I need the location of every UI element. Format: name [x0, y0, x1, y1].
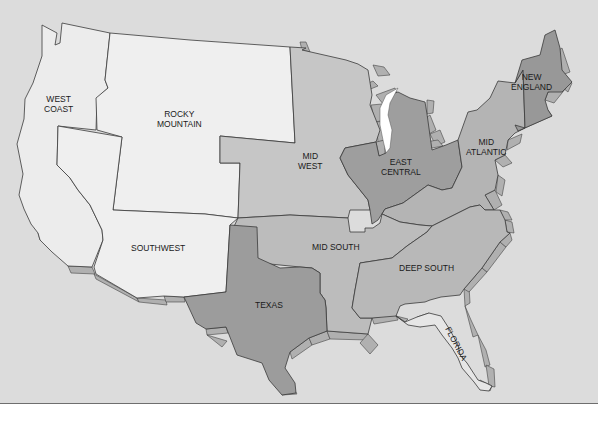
- label-deep-south: DEEP SOUTH: [399, 263, 454, 273]
- map-svg: [0, 0, 598, 403]
- regions: [17, 23, 572, 395]
- label-mid-atlantic: MID ATLANTIC: [466, 137, 506, 157]
- label-mid-south: MID SOUTH: [312, 242, 360, 252]
- label-rocky-mountain: ROCKY MOUNTAIN: [157, 109, 202, 129]
- label-west-coast: WEST COAST: [44, 94, 73, 114]
- label-new-england: NEW ENGLAND: [511, 72, 552, 92]
- label-southwest: SOUTHWEST: [131, 243, 185, 253]
- label-east-central: EAST CENTRAL: [381, 157, 421, 177]
- region-florida[interactable]: [396, 313, 492, 391]
- label-texas: TEXAS: [255, 300, 283, 310]
- us-regions-map: WEST COAST ROCKY MOUNTAIN SOUTHWEST MID …: [0, 0, 598, 404]
- label-mid-west: MID WEST: [298, 151, 323, 171]
